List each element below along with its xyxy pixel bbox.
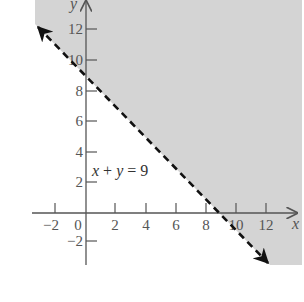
x-tick-labels: −2 0 2 4 6 8 10 12 <box>43 217 273 233</box>
x-axis-label: x <box>291 215 299 232</box>
y-tick-label: 6 <box>76 113 84 129</box>
y-tick-label: 12 <box>68 21 83 37</box>
inequality-graph: −2 0 2 4 6 8 10 12 12 10 8 6 4 2 −2 x y … <box>0 0 304 302</box>
y-tick-label: 4 <box>76 144 84 160</box>
x-tick-label: 4 <box>142 217 150 233</box>
x-tick-label: 6 <box>172 217 180 233</box>
x-tick-label: −2 <box>43 217 59 233</box>
x-tick-label: 0 <box>74 217 82 233</box>
y-axis-label: y <box>68 0 78 13</box>
x-tick-label: 2 <box>111 217 119 233</box>
x-tick-label: 8 <box>202 217 210 233</box>
x-tick-label: 12 <box>259 217 274 233</box>
y-tick-label: −2 <box>67 233 83 249</box>
equation-label: x + y = 9 <box>91 162 148 180</box>
y-tick-labels: 12 10 8 6 4 2 −2 <box>67 21 83 249</box>
y-tick-label: 2 <box>76 174 84 190</box>
y-tick-label: 8 <box>76 83 84 99</box>
